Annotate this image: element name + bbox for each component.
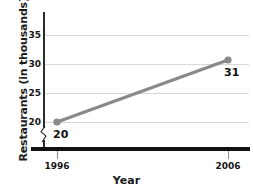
gridline-30 [45, 64, 249, 65]
x-tick-label-2006: 2006 [205, 161, 251, 171]
gridline-35 [45, 35, 249, 36]
y-tick-label-30: 30 [3, 60, 41, 69]
x-tick-mark-2006 [228, 151, 229, 159]
data-point-label-2006: 31 [224, 66, 239, 79]
y-axis-line [43, 12, 45, 128]
x-axis-title: Year [0, 174, 253, 187]
line-chart-figure: Restaurants (in thousands) 35 30 25 20 2… [0, 0, 253, 191]
x-tick-mark-1996 [57, 151, 58, 159]
x-tick-label-1996: 1996 [34, 161, 80, 171]
data-point-label-1996: 20 [53, 128, 68, 141]
gridline-25 [45, 93, 249, 94]
x-axis-line [31, 147, 250, 151]
y-tick-label-20: 20 [3, 118, 41, 127]
y-tick-label-25: 25 [3, 89, 41, 98]
gridline-20 [45, 122, 249, 123]
y-tick-label-35: 35 [3, 31, 41, 40]
